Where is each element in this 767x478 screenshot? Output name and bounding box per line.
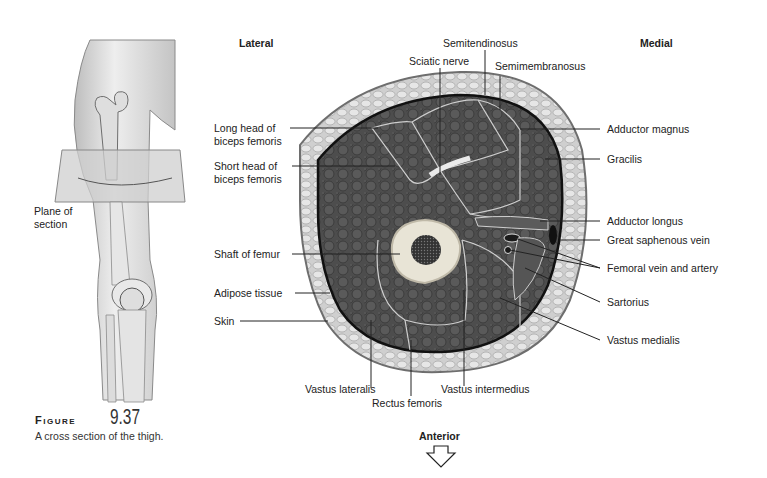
label-semimembranosus: Semimembranosus: [495, 60, 585, 73]
label-adipose-tissue: Adipose tissue: [214, 287, 282, 300]
label-gracilis: Gracilis: [607, 153, 642, 166]
short-head-line-2: biceps femoris: [214, 173, 282, 186]
label-vastus-lateralis: Vastus lateralis: [305, 383, 375, 396]
label-shaft-of-femur: Shaft of femur: [214, 248, 280, 261]
label-long-head-biceps-femoris: Long head of biceps femoris: [214, 122, 282, 147]
figure-word: Figure: [35, 414, 76, 426]
label-femoral-vein-artery: Femoral vein and artery: [607, 262, 718, 275]
label-adductor-longus: Adductor longus: [607, 215, 683, 228]
label-vastus-medialis: Vastus medialis: [607, 334, 680, 347]
figure-number: 9.37: [110, 404, 140, 430]
plane-label-line-1: Plane of: [34, 205, 73, 218]
inset-leg: [55, 40, 185, 402]
medial-label: Medial: [640, 37, 673, 50]
label-semitendinosus: Semitendinosus: [443, 37, 518, 50]
plane-of-section-label: Plane of section: [34, 205, 73, 230]
short-head-line-1: Short head of: [214, 160, 282, 173]
anterior-label: Anterior: [419, 430, 460, 443]
figure-caption: A cross section of the thigh.: [35, 430, 163, 442]
label-vastus-intermedius: Vastus intermedius: [441, 383, 530, 396]
label-sciatic-nerve: Sciatic nerve: [409, 55, 469, 68]
label-sartorius: Sartorius: [607, 296, 649, 309]
label-skin: Skin: [214, 315, 234, 328]
plane-label-line-2: section: [34, 218, 73, 231]
thigh-cross-section: [300, 72, 586, 372]
long-head-line-2: biceps femoris: [214, 135, 282, 148]
label-great-saphenous-vein: Great saphenous vein: [607, 234, 710, 247]
label-adductor-magnus: Adductor magnus: [607, 123, 689, 136]
long-head-line-1: Long head of: [214, 122, 282, 135]
label-short-head-biceps-femoris: Short head of biceps femoris: [214, 160, 282, 185]
label-rectus-femoris: Rectus femoris: [372, 397, 442, 410]
lateral-label: Lateral: [239, 37, 273, 50]
anterior-arrow-icon: [427, 446, 455, 467]
